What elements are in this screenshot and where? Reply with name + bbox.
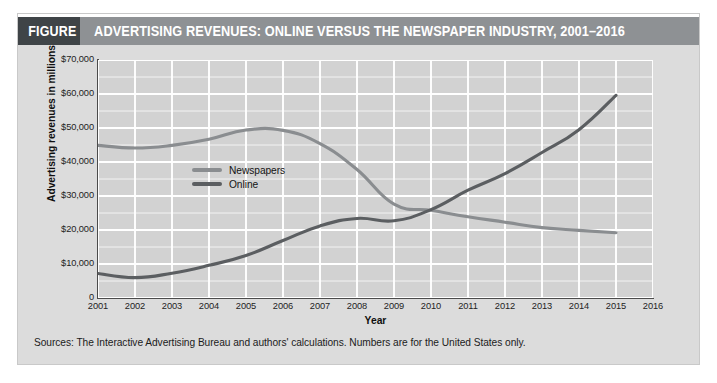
x-tick-label: 2012 <box>495 301 515 311</box>
y-tick-label: $20,000 <box>38 224 94 234</box>
source-note: Sources: The Interactive Advertising Bur… <box>34 337 526 348</box>
x-tick-label: 2003 <box>162 301 182 311</box>
x-tick-label: 2016 <box>643 301 663 311</box>
chart-legend: Newspapers Online <box>192 163 285 191</box>
plot-area <box>98 60 653 298</box>
x-tick-label: 2009 <box>384 301 404 311</box>
figure-title-bar: FIGURE 10–1 ADVERTISING REVENUES: ONLINE… <box>18 17 699 45</box>
x-tick-label: 2015 <box>606 301 626 311</box>
legend-item-online: Online <box>192 177 285 191</box>
y-tick-label: $70,000 <box>38 54 94 64</box>
figure-root: FIGURE 10–1 ADVERTISING REVENUES: ONLINE… <box>0 0 717 383</box>
legend-swatch-newspapers <box>192 168 222 173</box>
x-tick-label: 2006 <box>273 301 293 311</box>
x-tick-label: 2004 <box>199 301 219 311</box>
x-tick-label: 2002 <box>125 301 145 311</box>
y-axis-tick-labels: 0$10,000$20,000$30,000$40,000$50,000$60,… <box>34 0 94 383</box>
source-strip: Sources: The Interactive Advertising Bur… <box>18 327 699 364</box>
y-tick-label: $10,000 <box>38 258 94 268</box>
legend-label-newspapers: Newspapers <box>229 165 285 176</box>
y-tick-label: $60,000 <box>38 88 94 98</box>
x-tick-label: 2001 <box>88 301 108 311</box>
legend-label-online: Online <box>229 179 258 190</box>
x-tick-label: 2010 <box>421 301 441 311</box>
legend-swatch-online <box>192 182 222 187</box>
x-tick-label: 2005 <box>236 301 256 311</box>
y-tick-label: $50,000 <box>38 122 94 132</box>
legend-item-newspapers: Newspapers <box>192 163 285 177</box>
x-tick-label: 2007 <box>310 301 330 311</box>
x-axis-title: Year <box>98 315 653 326</box>
x-tick-label: 2014 <box>569 301 589 311</box>
x-tick-label: 2013 <box>532 301 552 311</box>
y-tick-label: $40,000 <box>38 156 94 166</box>
x-tick-label: 2008 <box>347 301 367 311</box>
x-tick-label: 2011 <box>458 301 478 311</box>
figure-title: ADVERTISING REVENUES: ONLINE VERSUS THE … <box>80 17 625 45</box>
series-lines <box>98 60 653 298</box>
y-tick-label: $30,000 <box>38 190 94 200</box>
